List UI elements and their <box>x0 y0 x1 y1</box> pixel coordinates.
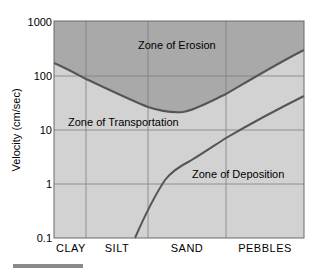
y-tick-1: 1 <box>46 178 52 190</box>
y-axis-label: Velocity (cm/sec) <box>10 88 22 171</box>
x-label-clay: CLAY <box>56 242 86 254</box>
y-tick-100: 100 <box>34 70 52 82</box>
scale-bar <box>13 264 83 268</box>
zone-deposition-label: Zone of Deposition <box>192 168 284 180</box>
x-label-pebbles: PEBBLES <box>238 242 292 254</box>
y-tick-10: 10 <box>40 124 52 136</box>
x-label-sand: SAND <box>171 242 204 254</box>
y-tick-1000: 1000 <box>28 16 52 28</box>
zone-erosion-label: Zone of Erosion <box>138 39 216 51</box>
x-label-silt: SILT <box>105 242 129 254</box>
zone-transportation-label: Zone of Transportation <box>68 116 179 128</box>
y-tick-0.1: 0.1 <box>37 232 52 244</box>
